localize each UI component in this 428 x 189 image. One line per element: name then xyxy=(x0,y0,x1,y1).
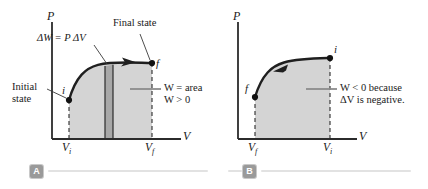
annotation-initial-state-line1: Initial xyxy=(12,81,37,93)
x-tick-vf-b-base: V xyxy=(248,141,255,153)
point-label-i-b: i xyxy=(334,43,337,55)
point-marker-i-a xyxy=(66,97,72,103)
annotation-delta-w: ΔW = P ΔV xyxy=(37,32,86,44)
x-axis-label-a: V xyxy=(183,130,190,143)
annotation-work-negative: W < 0 because ΔV is negative. xyxy=(340,82,405,106)
panel-b: P V Vf Vi i f W < 0 because ΔV is negati… xyxy=(214,0,428,189)
delta-w-strip xyxy=(105,65,113,139)
x-tick-vf-b: Vf xyxy=(248,141,257,157)
x-tick-vi-a-sub: i xyxy=(69,147,71,156)
x-tick-vi-a: Vi xyxy=(62,141,71,157)
caption-rule-a xyxy=(48,170,208,172)
annotation-final-state: Final state xyxy=(113,17,156,29)
point-label-i-a: i xyxy=(62,84,65,96)
point-marker-f-b xyxy=(252,94,258,100)
x-tick-vf-a-sub: f xyxy=(152,147,154,156)
x-tick-vf-b-sub: f xyxy=(255,147,257,156)
panel-a: P V Vi Vf i f Initial state Final state … xyxy=(0,0,214,189)
x-tick-vi-b: Vi xyxy=(323,141,332,157)
caption-rule-b-right xyxy=(261,170,411,172)
annotation-initial-state-line2: state xyxy=(12,93,37,105)
panel-badge-a: A xyxy=(30,165,43,178)
x-axis-label-b: V xyxy=(359,130,366,143)
annotation-initial-state: Initial state xyxy=(12,81,37,105)
point-marker-i-b xyxy=(327,55,333,61)
annotation-work-area-line2: W > 0 xyxy=(164,94,202,106)
annotation-work-area: W = area W > 0 xyxy=(164,82,202,106)
y-axis-label-b: P xyxy=(233,10,240,23)
panel-badge-b: B xyxy=(243,165,256,178)
annotation-work-area-line1: W = area xyxy=(164,82,202,94)
annotation-work-negative-line1: W < 0 because xyxy=(340,82,405,94)
x-tick-vf-a-base: V xyxy=(145,141,152,153)
caption-rule-b-left xyxy=(228,170,242,172)
y-axis-label-a: P xyxy=(47,10,54,23)
leader-final-state xyxy=(140,34,150,60)
point-marker-f-a xyxy=(149,60,155,66)
x-tick-vi-a-base: V xyxy=(62,141,69,153)
point-label-f-a: f xyxy=(156,57,159,69)
x-tick-vf-a: Vf xyxy=(145,141,154,157)
x-tick-vi-b-base: V xyxy=(323,141,330,153)
shaded-work-area-b xyxy=(255,58,330,139)
point-label-f-b: f xyxy=(245,82,248,94)
leader-delta-w xyxy=(94,45,107,64)
annotation-work-negative-line2: ΔV is negative. xyxy=(340,94,405,106)
physics-figure-pv-diagram: P V Vi Vf i f Initial state Final state … xyxy=(0,0,428,189)
x-tick-vi-b-sub: i xyxy=(330,147,332,156)
